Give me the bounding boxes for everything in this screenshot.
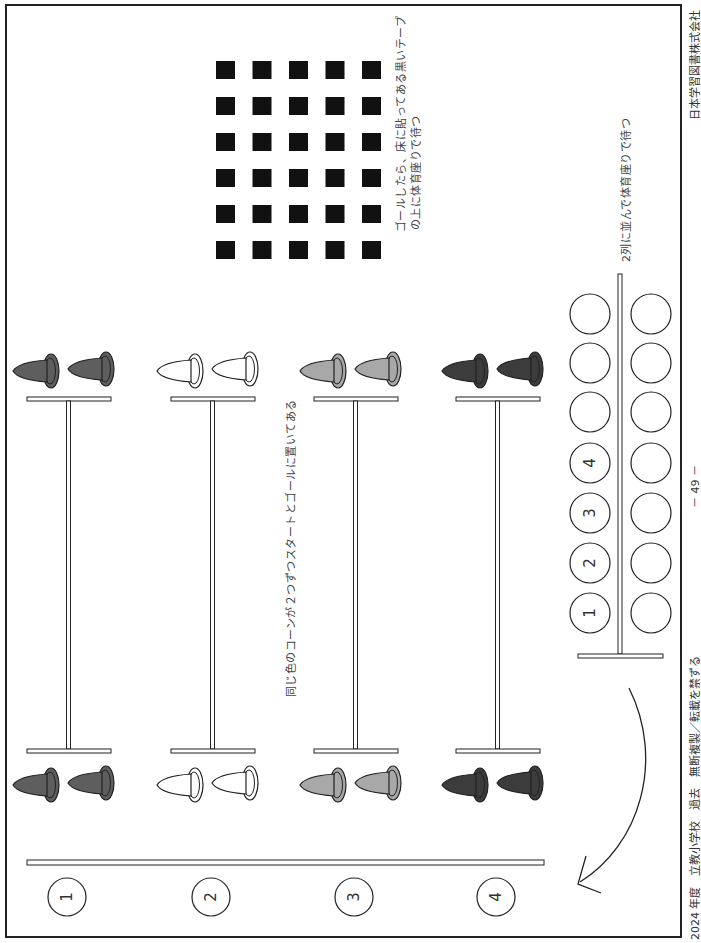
lane-number-circle: 2: [192, 878, 230, 916]
black-tape-square: [253, 205, 272, 223]
waiting-spot-right: [631, 392, 671, 432]
black-tape-square: [326, 133, 345, 151]
black-tape-square: [362, 241, 381, 259]
black-tape-square: [253, 97, 272, 115]
waiting-spot-left: 3: [570, 493, 610, 533]
waiting-spot-right: [631, 493, 671, 533]
waiting-spot-right: [631, 543, 671, 583]
black-tape-square: [289, 169, 308, 187]
goal-bar: [314, 397, 398, 401]
black-tape-square: [326, 97, 345, 115]
cone-icon: [355, 766, 401, 800]
lane-1: [13, 352, 114, 802]
svg-text:4: 4: [581, 458, 599, 468]
black-tape-square: [253, 133, 272, 151]
black-tape-square: [326, 241, 345, 259]
waiting-spot-right: [631, 443, 671, 483]
waiting-spot-left: [570, 294, 610, 334]
black-tape-square: [326, 169, 345, 187]
start-bar: [314, 749, 398, 753]
cone-icon: [68, 352, 114, 386]
black-tape-square: [326, 205, 345, 223]
waiting-spot-right: [631, 294, 671, 334]
black-tape-square: [253, 61, 272, 79]
cone-icon: [442, 354, 488, 388]
cone-icon: [13, 354, 59, 388]
black-tape-square: [216, 133, 235, 151]
black-tape-square: [289, 133, 308, 151]
footer-publisher: 日本学習図書株式会社: [686, 10, 701, 120]
waiting-spot-left: [570, 392, 610, 432]
waiting-instruction-label: 2列に並んで体育座りで待つ: [617, 118, 633, 263]
lane-line: [67, 401, 71, 749]
goal-bar: [456, 397, 540, 401]
lane-number-markers: 1234: [48, 878, 515, 916]
black-tape-square: [362, 169, 381, 187]
relay-course-diagram: 1234 1234: [0, 0, 701, 943]
cone-icon: [212, 352, 258, 386]
cone-icon: [300, 354, 346, 388]
goal-bar: [171, 397, 255, 401]
waiting-spot-left: [570, 343, 610, 383]
cone-icon: [68, 766, 114, 800]
black-tape-square: [362, 97, 381, 115]
svg-text:2: 2: [202, 892, 220, 902]
black-tape-square: [289, 205, 308, 223]
black-tape-square: [362, 61, 381, 79]
lanes: [13, 352, 543, 802]
svg-text:3: 3: [345, 892, 363, 902]
rotated-worksheet-page: 1234 1234 ゴールしたら、床に貼ってある黒いテープ の上に体育座りで待つ…: [0, 0, 701, 943]
black-tape-square: [289, 241, 308, 259]
cone-icon: [157, 354, 203, 388]
cone-icon: [442, 768, 488, 802]
svg-text:2: 2: [581, 558, 599, 568]
cone-icon: [212, 766, 258, 800]
cone-icon: [355, 352, 401, 386]
start-bar: [171, 749, 255, 753]
cone-icon: [300, 768, 346, 802]
lane-4: [442, 352, 543, 802]
goal-instruction-line2: の上に体育座りで待つ: [409, 16, 424, 233]
waiting-area: 1234: [570, 274, 671, 658]
black-tape-square: [216, 169, 235, 187]
cone-icon: [13, 768, 59, 802]
black-tape-square: [362, 205, 381, 223]
black-tape-square: [253, 241, 272, 259]
waiting-base-bar: [578, 654, 663, 658]
goal-instruction-label: ゴールしたら、床に貼ってある黒いテープ の上に体育座りで待つ: [394, 16, 424, 233]
curved-arrow-icon: [578, 688, 646, 893]
goal-instruction-line1: ゴールしたら、床に貼ってある黒いテープ: [394, 16, 409, 233]
svg-text:4: 4: [487, 892, 505, 902]
lane-line: [496, 401, 500, 749]
lane-number-circle: 3: [335, 878, 373, 916]
lane-line: [211, 401, 215, 749]
lane-number-circle: 4: [477, 878, 515, 916]
black-tape-square: [362, 133, 381, 151]
lane-2: [157, 352, 258, 802]
waiting-spot-right: [631, 593, 671, 633]
waiting-spot-right: [631, 343, 671, 383]
black-tape-square: [216, 205, 235, 223]
waiting-spot-left: 1: [570, 593, 610, 633]
cones-note-label: 同じ色のコーンが２つずつスタートとゴールに置いてある: [282, 399, 298, 697]
black-tape-grid: [216, 61, 381, 259]
goal-bar: [27, 397, 111, 401]
footer-page-number: － 49 －: [686, 465, 701, 508]
black-tape-square: [216, 97, 235, 115]
lane-3: [300, 352, 401, 802]
black-tape-square: [289, 97, 308, 115]
lane-line: [354, 401, 358, 749]
cone-icon: [497, 766, 543, 800]
black-tape-square: [216, 61, 235, 79]
start-line: [27, 860, 544, 865]
svg-text:3: 3: [581, 508, 599, 518]
footer-copyright: 2024 年度 立教小学校 過去 無断複製／転載を禁ずる: [686, 656, 701, 941]
black-tape-square: [326, 61, 345, 79]
black-tape-square: [289, 61, 308, 79]
start-bar: [27, 749, 111, 753]
lane-number-circle: 1: [48, 878, 86, 916]
black-tape-square: [253, 169, 272, 187]
svg-text:1: 1: [581, 608, 599, 618]
start-bar: [456, 749, 540, 753]
waiting-spot-left: 4: [570, 443, 610, 483]
